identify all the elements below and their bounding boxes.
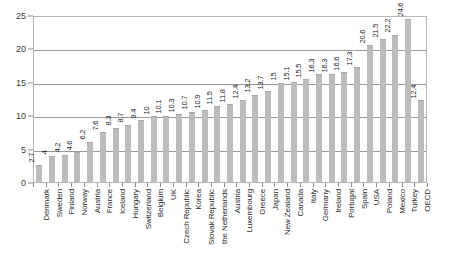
x-tick-mark [160,183,161,187]
bar-group: 20.6 [363,16,376,183]
x-axis-label: Denmark [43,189,51,221]
x-tick-mark [376,183,377,187]
bar [303,79,309,183]
x-tick-mark [71,183,72,187]
bar [202,110,208,183]
bar [329,74,335,183]
bar-value-label: 4.6 [67,140,75,150]
bar-value-label: 12.4 [410,84,418,98]
x-axis-labels: DenmarkSwedenFinlandNorwayAustriaFranceI… [33,189,427,275]
bar-group: 6.2 [84,16,97,183]
bar [278,83,284,183]
x-axis-label: Luxembourg [246,189,254,232]
bar [265,91,271,183]
bar-group: 4.2 [58,16,71,183]
bar-group: 8.7 [122,16,135,183]
bar [36,165,42,183]
bar-value-label: 4.2 [54,143,62,153]
bar-value-label: 17.3 [346,52,354,66]
bar-value-label: 7.6 [92,120,100,130]
bar [125,125,131,183]
bar-value-label: 16.6 [334,56,342,70]
bar [380,39,386,183]
x-axis-label: Austria [234,189,242,213]
bar [214,106,220,183]
x-axis-label: Austria [94,189,102,213]
x-tick-mark [363,183,364,187]
bar-group: 16.3 [313,16,326,183]
bar-group: 21.5 [376,16,389,183]
x-tick-mark [325,183,326,187]
x-axis-ticks [33,183,427,187]
bar-value-label: 12.4 [232,84,240,98]
bar-value-label: 16.3 [308,58,316,72]
x-axis-label: Italy [310,189,318,203]
bar [240,100,246,183]
bar [176,114,182,183]
bar-group: 2.7 [33,16,46,183]
x-axis-label: Germany [322,189,330,221]
x-axis-label: Belgium [157,189,165,217]
bar-group: 9.4 [135,16,148,183]
x-tick-mark [58,183,59,187]
x-tick-mark [338,183,339,187]
x-axis-label: the Netherlands [221,189,229,244]
x-tick-mark [211,183,212,187]
bar-value-label: 15.1 [283,66,291,80]
x-axis-label: Finland [68,189,76,215]
x-tick-mark [389,183,390,187]
bar [151,116,157,183]
x-tick-mark [224,183,225,187]
bar-value-label: 9.4 [130,108,138,118]
x-axis-label: Norway [81,189,89,216]
bar-value-label: 10.9 [194,94,202,108]
y-tick-label: 15 [16,78,26,87]
x-axis-label: Portugal [348,189,356,218]
x-axis-label: OECD [424,189,432,212]
bar [367,45,373,183]
bar [392,35,398,183]
x-tick-mark [33,183,34,187]
x-tick-mark [351,183,352,187]
x-tick-mark [109,183,110,187]
x-axis-label: USA [373,189,381,205]
x-axis-label: France [106,189,114,213]
y-tick-label: 5 [21,145,26,154]
bar [341,72,347,183]
y-tick-label: 0 [21,179,26,188]
x-tick-mark [249,183,250,187]
bar-value-label: 8.7 [118,113,126,123]
x-tick-mark [313,183,314,187]
bar-value-label: 6.2 [79,130,87,140]
bar-value-label: 24.6 [397,3,405,17]
x-tick-mark [427,183,428,187]
bar-group: 15.1 [287,16,300,183]
bar [163,116,169,183]
x-tick-mark [173,183,174,187]
bar-value-label: 20.6 [359,30,367,44]
x-axis-label: Japan [272,189,280,210]
y-tick-label: 20 [16,45,26,54]
bar-group: 22.2 [389,16,402,183]
bar [49,156,55,183]
x-axis-label: Greece [259,189,267,215]
bar [227,104,233,183]
x-axis-label: Czech Republic [183,189,191,244]
x-tick-mark [84,183,85,187]
x-axis-label: New Zealand [284,189,292,235]
bar-chart: 0510152025 2.744.24.66.27.68.38.79.41010… [0,0,476,276]
x-axis-label: Switzerland [145,189,153,229]
x-axis-label: Sweden [56,189,64,217]
bar-group: 16.3 [325,16,338,183]
bar-value-label: 21.5 [372,24,380,38]
bar-value-label: 16.3 [321,58,329,72]
bar [291,82,297,183]
bars-layer: 2.744.24.66.27.68.38.79.41010.110.310.71… [33,16,427,183]
bar-value-label: 13.2 [245,79,253,93]
x-tick-mark [414,183,415,187]
x-tick-mark [186,183,187,187]
bar-group: 15 [274,16,287,183]
x-axis-label: Canada [297,189,305,216]
bar-group: 12.4 [236,16,249,183]
bar-value-label: 2.7 [29,153,37,163]
